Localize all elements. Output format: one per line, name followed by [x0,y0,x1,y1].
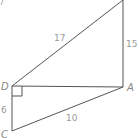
length-label-15: 15 [126,39,137,49]
geometry-diagram: D A C 17 15 6 10 [0,0,139,138]
vertex-label-d: D [1,81,9,92]
vertex-label-c: C [1,129,8,138]
cutoff-label-mark [1,0,3,5]
length-label-17: 17 [54,33,65,43]
edge-d-top [12,0,123,86]
edge-d-a [12,86,123,87]
vertex-label-a: A [126,82,134,93]
length-label-6: 6 [1,105,7,115]
edge-c-a [12,87,123,131]
length-label-10: 10 [66,113,78,123]
right-angle-marker [12,86,22,96]
